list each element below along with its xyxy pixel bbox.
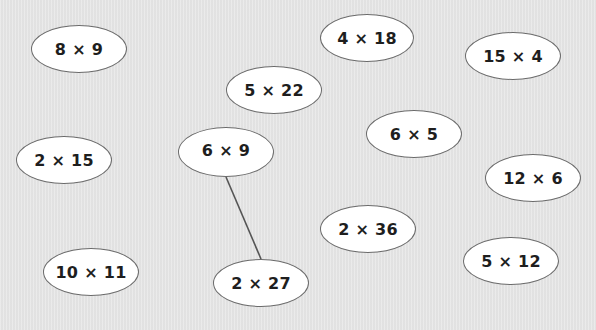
oval-12x6[interactable]: 12 × 6	[485, 154, 581, 202]
oval-label: 15 × 4	[483, 47, 543, 66]
oval-5x22[interactable]: 5 × 22	[226, 66, 322, 114]
oval-label: 2 × 15	[34, 151, 94, 170]
oval-label: 4 × 18	[337, 29, 397, 48]
oval-5x12[interactable]: 5 × 12	[463, 237, 559, 285]
oval-2x27[interactable]: 2 × 27	[213, 259, 309, 307]
oval-label: 10 × 11	[55, 263, 126, 282]
oval-label: 2 × 27	[231, 274, 291, 293]
matching-activity-canvas: 8 × 9 4 × 18 15 × 4 5 × 22 2 × 15 6 × 9 …	[0, 0, 596, 330]
oval-label: 6 × 9	[202, 141, 250, 160]
connection-line	[226, 177, 261, 259]
oval-label: 5 × 22	[244, 81, 304, 100]
oval-15x4[interactable]: 15 × 4	[465, 32, 561, 80]
oval-label: 2 × 36	[338, 220, 398, 239]
oval-label: 12 × 6	[503, 169, 563, 188]
oval-8x9[interactable]: 8 × 9	[31, 25, 127, 73]
oval-label: 6 × 5	[390, 125, 438, 144]
oval-2x15[interactable]: 2 × 15	[16, 136, 112, 184]
oval-2x36[interactable]: 2 × 36	[320, 205, 416, 253]
oval-label: 5 × 12	[481, 252, 541, 271]
oval-4x18[interactable]: 4 × 18	[320, 14, 414, 62]
oval-label: 8 × 9	[55, 40, 103, 59]
oval-6x5[interactable]: 6 × 5	[366, 110, 462, 158]
oval-10x11[interactable]: 10 × 11	[43, 248, 139, 296]
oval-6x9[interactable]: 6 × 9	[178, 127, 274, 177]
